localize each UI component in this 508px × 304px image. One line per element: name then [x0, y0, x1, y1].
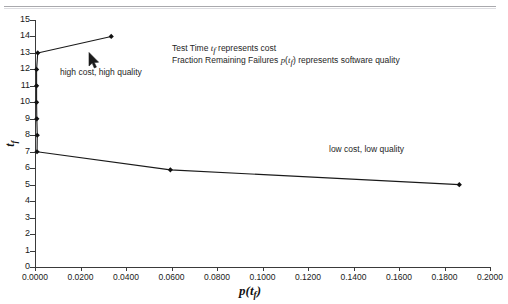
y-tick-label-wrap: 15 [8, 15, 30, 24]
x-tick-0.1000 [263, 267, 264, 271]
x-tick-0.0600 [172, 267, 173, 271]
annotation-note-quality-pre: Fraction Remaining Failures [172, 55, 281, 65]
x-tick-0.2000 [490, 267, 491, 271]
x-axis-title-var: p [239, 283, 246, 298]
y-tick-2 [30, 234, 35, 235]
mouse-pointer-icon [88, 52, 100, 69]
y-tick-label-wrap: 13 [8, 48, 30, 57]
x-tick-0.1200 [308, 267, 309, 271]
x-axis-title-sub: f [254, 290, 257, 300]
y-tick-label-wrap: 1 [8, 246, 30, 255]
y-tick-10 [30, 102, 35, 103]
annotation-note-cost-pre: Test Time [172, 43, 211, 53]
x-tick-0.0800 [217, 267, 218, 271]
x-tick-0.1400 [354, 267, 355, 271]
data-point-marker [109, 34, 114, 39]
x-tick-0.1800 [445, 267, 446, 271]
y-tick-label-3: 3 [14, 213, 30, 222]
y-tick-label-4: 4 [14, 196, 30, 205]
y-tick-label-wrap: 12 [8, 64, 30, 73]
y-tick-5 [30, 185, 35, 186]
y-tick-label-wrap: 4 [8, 196, 30, 205]
annotation-low-cost-low-quality: low cost, low quality [329, 144, 404, 155]
x-tick-0.0000 [35, 267, 36, 271]
y-axis-title-sub: f [9, 141, 19, 144]
y-tick-label-9: 9 [14, 114, 30, 123]
y-tick-3 [30, 218, 35, 219]
page-top-rule [4, 6, 496, 7]
page-top-rule-secondary [4, 8, 496, 9]
y-tick-label-wrap: 11 [8, 81, 30, 90]
y-tick-label-11: 11 [14, 81, 30, 90]
y-tick-14 [30, 36, 35, 37]
y-axis-line [35, 20, 36, 268]
y-axis-title: tf [3, 129, 18, 159]
y-tick-7 [30, 152, 35, 153]
y-tick-label-2: 2 [14, 229, 30, 238]
y-tick-label-wrap: 5 [8, 180, 30, 189]
y-tick-11 [30, 86, 35, 87]
y-tick-4 [30, 201, 35, 202]
x-tick-0.0200 [81, 267, 82, 271]
y-tick-1 [30, 251, 35, 252]
y-tick-label-wrap: 3 [8, 213, 30, 222]
y-tick-label-wrap: 6 [8, 163, 30, 172]
y-tick-label-5: 5 [14, 180, 30, 189]
y-tick-8 [30, 135, 35, 136]
x-tick-label-0.2000: 0.2000 [460, 273, 508, 282]
data-point-marker [457, 182, 462, 187]
y-tick-label-15: 15 [14, 15, 30, 24]
y-tick-6 [30, 168, 35, 169]
y-tick-label-wrap: 10 [8, 97, 30, 106]
y-tick-13 [30, 53, 35, 54]
y-tick-label-14: 14 [14, 31, 30, 40]
y-tick-label-wrap: 2 [8, 229, 30, 238]
y-tick-label-1: 1 [14, 246, 30, 255]
annotation-note-quality-post: represents software quality [296, 55, 400, 65]
annotation-high-cost-high-quality: high cost, high quality [60, 67, 142, 78]
y-tick-12 [30, 69, 35, 70]
x-tick-0.0400 [126, 267, 127, 271]
x-tick-0.1600 [399, 267, 400, 271]
y-tick-label-12: 12 [14, 64, 30, 73]
y-tick-label-13: 13 [14, 48, 30, 57]
y-tick-9 [30, 119, 35, 120]
annotation-note-cost-post: represents cost [216, 43, 276, 53]
y-tick-label-wrap: 0 [8, 262, 30, 271]
y-tick-label-wrap: 14 [8, 31, 30, 40]
y-tick-label-wrap: 9 [8, 114, 30, 123]
y-tick-15 [30, 20, 35, 21]
y-tick-label-10: 10 [14, 97, 30, 106]
y-tick-label-0: 0 [14, 262, 30, 271]
y-axis-title-var: t [3, 143, 17, 146]
y-tick-label-6: 6 [14, 163, 30, 172]
data-point-marker [168, 167, 173, 172]
annotation-note-quality: Fraction Remaining Failures p(tf) repres… [172, 55, 400, 68]
x-axis-title: p(tf) [0, 283, 500, 300]
